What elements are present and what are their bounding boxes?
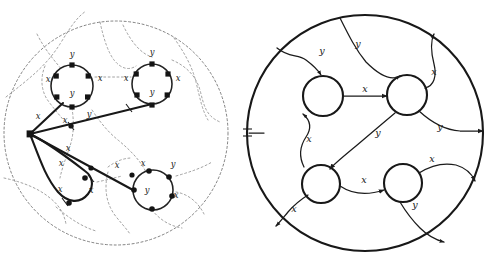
edge-midpoint <box>88 165 93 170</box>
left-label: y <box>69 88 75 98</box>
vertex-marker <box>85 94 90 99</box>
left-label: x <box>59 158 64 168</box>
left-label: x <box>63 115 68 125</box>
vertex-marker <box>146 168 152 174</box>
left-label: x <box>115 160 120 170</box>
vertex-marker <box>69 62 74 67</box>
right-label: x <box>361 174 367 185</box>
vertex-marker <box>131 187 137 193</box>
canvas-background <box>0 0 487 267</box>
embedding-figure: y x x y y x x y <box>0 0 487 267</box>
hub-vertex <box>27 130 34 137</box>
left-label: y <box>69 49 75 59</box>
right-label: x <box>291 203 297 214</box>
loop-vertex <box>82 175 88 181</box>
vertex-marker <box>166 174 172 180</box>
vertex-marker <box>165 92 170 97</box>
left-label: x <box>174 190 179 200</box>
vertex-marker <box>149 206 155 212</box>
left-label: x <box>98 73 103 83</box>
figure-container: y x x y y x x y <box>0 0 487 267</box>
left-label: y <box>149 87 155 97</box>
right-label: x <box>431 66 437 77</box>
left-label: y <box>86 109 92 119</box>
vertex-marker <box>54 94 59 99</box>
left-label: x <box>66 143 71 153</box>
left-label: x <box>141 158 146 168</box>
left-label: x <box>124 73 129 83</box>
right-label: y <box>374 127 381 138</box>
left-label: x <box>89 185 94 195</box>
right-label: x <box>429 153 435 164</box>
right-label: y <box>436 121 443 132</box>
vertex-marker <box>69 104 74 109</box>
left-label: y <box>170 159 176 169</box>
right-label: y <box>411 199 418 210</box>
left-label: x <box>58 184 63 194</box>
vertex-marker <box>54 73 59 78</box>
vertex-marker <box>86 73 91 78</box>
left-label: x <box>176 73 181 83</box>
vertex-marker <box>149 61 154 66</box>
edge-midpoint <box>129 172 134 177</box>
right-label: y <box>318 45 325 56</box>
vertex-marker <box>134 92 139 97</box>
right-label: y <box>354 38 361 49</box>
right-label: x <box>362 83 368 94</box>
left-label: y <box>149 47 155 57</box>
vertex-marker <box>165 71 170 76</box>
left-label: y <box>144 185 150 195</box>
right-label: x <box>306 133 312 144</box>
vertex-marker <box>134 71 139 76</box>
left-label: x <box>46 74 51 84</box>
left-label: x <box>36 111 41 121</box>
